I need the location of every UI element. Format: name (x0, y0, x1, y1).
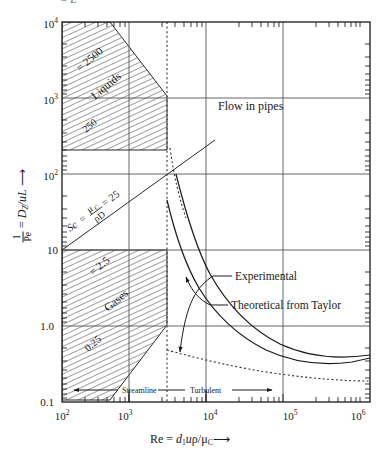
curve-lower-asymptote (167, 350, 370, 381)
svg-text:= 25: = 25 (99, 188, 121, 208)
curve-group (167, 174, 370, 364)
y-minor-ticks-right (365, 44, 370, 398)
x-minor-ticks-top (85, 22, 360, 27)
experimental-label: Experimental (235, 270, 297, 283)
theoretical-label: Theoretical from Taylor (231, 299, 341, 312)
dotted-curve-group (167, 148, 370, 381)
plot-canvas: = 2500 Liquids 250 = 2.5 Gases 0.25 Sc =… (0, 0, 379, 457)
turbulent-label: Turbulent (190, 386, 222, 395)
svg-text:=: = (77, 212, 88, 224)
schmidt-guide-line (62, 140, 215, 250)
curve-theoretical (176, 174, 370, 357)
gases-band (62, 250, 167, 400)
figure-root: = L 104 103 102 10 1.0 0.1 102 103 104 1… (0, 0, 379, 457)
leader-experimental (180, 276, 213, 352)
x-minor-ticks (85, 394, 360, 402)
svg-text:Sc: Sc (65, 219, 80, 234)
flow-in-pipes-label: Flow in pipes (218, 99, 284, 113)
streamline-label: Streamline (122, 386, 157, 395)
schmidt-number-label: Sc = μ C ρD = 25 (63, 186, 126, 240)
